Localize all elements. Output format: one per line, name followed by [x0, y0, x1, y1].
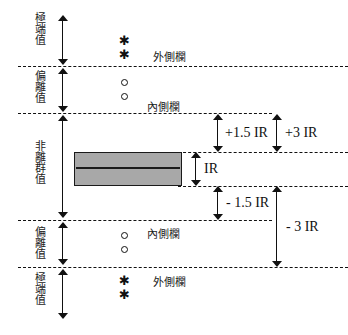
- band-arrow-outlier-lower: [57, 222, 68, 265]
- extreme-marker-lower-1: ✱: [119, 274, 130, 287]
- measure-label-plus-one-half-ir: +1.5 IR: [225, 125, 268, 141]
- extreme-marker-lower-2: ✱: [119, 288, 130, 301]
- measure-label-ir: IR: [204, 161, 218, 177]
- fence-label-outer-upper: 外側欄: [153, 48, 186, 64]
- fence-line-outer-upper: [18, 66, 348, 67]
- extreme-marker-upper-2: ✱: [119, 48, 130, 61]
- outlier-marker-lower-1: [121, 232, 128, 239]
- band-label-extreme-upper: 極端值: [34, 12, 45, 45]
- measure-arrow-minus-three-ir: [271, 186, 282, 267]
- band-label-outlier-upper: 偏離值: [34, 70, 45, 103]
- measure-arrow-plus-three-ir: [271, 114, 282, 152]
- fence-line-inner-lower: [18, 220, 272, 221]
- outlier-marker-upper-1: [121, 79, 128, 86]
- band-label-outlier-lower: 偏離值: [34, 226, 45, 259]
- boxplot-median-line: [76, 167, 180, 169]
- measure-arrow-plus-one-half-ir: [212, 114, 223, 152]
- fence-line-outer-lower: [18, 267, 348, 268]
- band-label-non-outlier: 非離群值: [34, 140, 45, 184]
- measure-arrow-ir: [190, 152, 201, 186]
- measure-label-minus-three-ir: - 3 IR: [286, 219, 319, 235]
- band-arrow-non-outlier: [57, 115, 68, 218]
- measure-label-plus-three-ir: +3 IR: [285, 125, 317, 141]
- fence-line-box-bottom: [178, 186, 348, 187]
- fence-line-box-top: [178, 152, 348, 153]
- fence-label-inner-lower: 內側欄: [147, 225, 180, 241]
- fence-line-inner-upper: [18, 113, 272, 114]
- measure-label-minus-one-half-ir: - 1.5 IR: [226, 195, 269, 211]
- fence-label-outer-lower: 外側欄: [153, 273, 186, 289]
- outlier-marker-upper-2: [121, 93, 128, 100]
- band-label-extreme-lower: 極端值: [34, 272, 45, 305]
- band-arrow-extreme-lower: [57, 269, 68, 319]
- boxplot-outlier-diagram: 極端值 偏離值 非離群值 偏離值 極端值 ✱ ✱ ✱ ✱ 外側欄 內側欄 內側欄…: [0, 0, 348, 335]
- band-arrow-extreme-upper: [57, 15, 68, 65]
- band-arrow-outlier-upper: [57, 68, 68, 112]
- measure-arrow-minus-one-half-ir: [212, 186, 223, 220]
- outlier-marker-lower-2: [121, 246, 128, 253]
- fence-label-inner-upper: 內側欄: [147, 98, 180, 114]
- extreme-marker-upper-1: ✱: [119, 34, 130, 47]
